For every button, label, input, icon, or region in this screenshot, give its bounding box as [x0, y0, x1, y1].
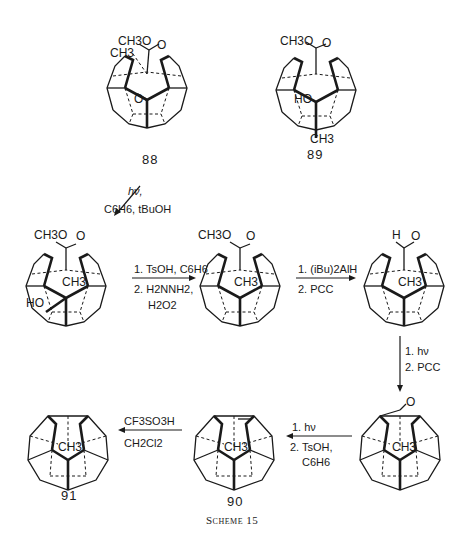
arrow-int3-to-int4 — [397, 336, 403, 392]
label-int2-ch3: CH3 — [234, 275, 258, 289]
label-90-ch3: CH3 — [224, 440, 248, 454]
conditions-int1-line1: 1. TsOH, C6H6 — [134, 262, 208, 276]
label-int3-h: H — [392, 228, 401, 242]
scheme-drawing — [0, 0, 462, 536]
conditions-int2-line2: 2. PCC — [298, 282, 333, 296]
conditions-int4-line1: 1. hν — [292, 420, 316, 434]
label-89-ch3: CH3 — [310, 132, 334, 146]
label-int1-ch3o: CH3O — [34, 228, 67, 242]
label-88-o-ketone: O — [134, 92, 143, 106]
compound-number-88: 88 — [142, 152, 158, 167]
conditions-int4-line3: C6H6 — [302, 455, 330, 469]
compound-number-90: 90 — [227, 494, 243, 509]
conditions-90-line2: CH2Cl2 — [124, 436, 163, 450]
conditions-int4-line2: 2. TsOH, — [290, 440, 333, 454]
label-int1-o: O — [76, 229, 85, 243]
conditions-88-line2: C6H6, tBuOH — [104, 202, 171, 216]
label-int1-ch3: CH3 — [62, 275, 86, 289]
label-int4-o: O — [406, 395, 415, 409]
compound-89-structure — [276, 42, 356, 138]
compound-number-89: 89 — [307, 147, 323, 162]
label-int2-ch3o: CH3O — [198, 228, 231, 242]
conditions-90-line1: CF3SO3H — [124, 414, 175, 428]
conditions-int1-line3: H2O2 — [148, 298, 177, 312]
label-89-ho: HO — [294, 92, 312, 106]
label-88-ch3: CH3 — [110, 46, 134, 60]
conditions-int3-line2: 2. PCC — [405, 360, 440, 374]
conditions-88-line1: hν, — [128, 184, 143, 198]
label-int3-o: O — [411, 229, 420, 243]
conditions-int2-line1: 1. (iBu)2AlH — [298, 262, 357, 276]
label-int1-ho: HO — [26, 296, 44, 310]
label-89-ch3o: CH3O — [280, 34, 313, 48]
label-89-o: O — [322, 36, 331, 50]
conditions-int3-line1: 1. hν — [405, 344, 429, 358]
label-int2-o: O — [246, 229, 255, 243]
compound-number-91: 91 — [61, 488, 77, 503]
label-int4-ch3: CH3 — [392, 440, 416, 454]
label-91-ch3: CH3 — [58, 440, 82, 454]
scheme-caption: Scheme 15 — [206, 514, 258, 526]
label-88-o-ester: O — [157, 38, 166, 52]
label-int3-ch3: CH3 — [398, 275, 422, 289]
conditions-int1-line2: 2. H2NNH2, — [134, 282, 193, 296]
